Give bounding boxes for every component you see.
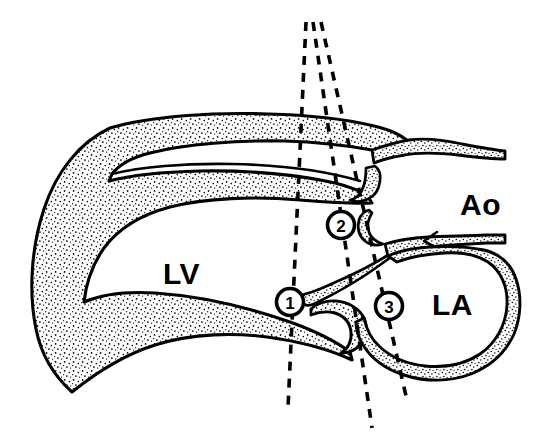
marker-3-label: 3 [384,298,393,317]
label-ao: Ao [460,188,501,221]
marker-2-label: 2 [336,217,345,236]
marker-3[interactable]: 3 [376,293,403,320]
label-lv: LV [163,257,200,290]
marker-1-label: 1 [285,294,294,313]
label-la: LA [432,288,473,321]
marker-1[interactable]: 1 [277,289,304,316]
marker-2[interactable]: 2 [328,212,355,239]
heart-diagram-figure: 1 2 3 LV LA Ao [0,0,545,448]
heart-diagram-svg: 1 2 3 LV LA Ao [0,0,545,448]
